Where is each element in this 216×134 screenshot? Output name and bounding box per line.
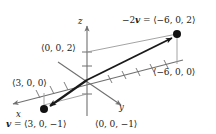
label-neg-x-point: ⟨−6, 0, 0⟩ [153, 68, 195, 77]
axis-label-z: z [78, 17, 82, 26]
axis-z [82, 26, 92, 116]
label-neg2v-prefix: −2 [122, 15, 135, 25]
point-neg2v [173, 30, 181, 38]
label-z-intercept: ⟨0, 0, 2⟩ [41, 44, 76, 53]
point-v [40, 105, 48, 113]
label-neg2v: −2v = ⟨−6, 0, 2⟩ [122, 16, 195, 25]
label-x-point: ⟨3, 0, 0⟩ [12, 79, 47, 88]
label-v: v = ⟨3, 0, −1⟩ [6, 120, 66, 129]
vector-diagram-figure: −2v = ⟨−6, 0, 2⟩ ⟨0, 0, 2⟩ ⟨3, 0, 0⟩ ⟨−6… [0, 0, 216, 134]
label-neg2v-suffix: = ⟨−6, 0, 2⟩ [140, 15, 195, 25]
axis-label-x: x [16, 110, 21, 119]
label-v-suffix: = ⟨3, 0, −1⟩ [11, 119, 66, 129]
label-neg-z-intercept: ⟨0, 0, −1⟩ [95, 120, 137, 129]
axis-label-y: y [119, 103, 124, 112]
